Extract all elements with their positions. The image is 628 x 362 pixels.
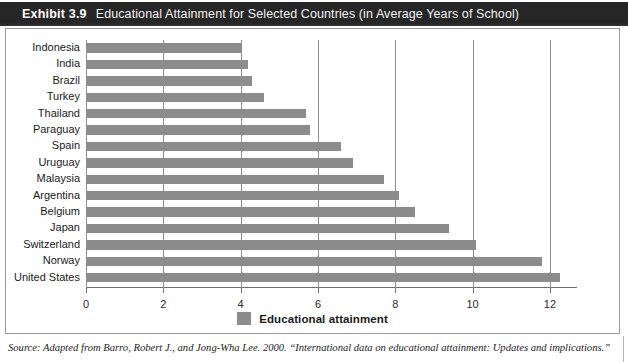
category-label-norway: Norway xyxy=(43,254,80,267)
x-tick-label-0: 0 xyxy=(83,298,89,310)
x-tick-mark-0 xyxy=(86,288,87,293)
bar-row: Indonesia xyxy=(86,40,577,56)
bar-row: Uruguay xyxy=(86,155,577,171)
bar-belgium xyxy=(86,207,415,216)
category-label-paraguay: Paraguay xyxy=(33,123,80,136)
category-label-argentina: Argentina xyxy=(33,189,80,202)
category-label-united-states: United States xyxy=(14,271,80,284)
legend-label: Educational attainment xyxy=(259,313,388,325)
x-tick-label-10: 10 xyxy=(466,298,478,310)
bar-row: Turkey xyxy=(86,89,577,105)
category-label-malaysia: Malaysia xyxy=(37,172,80,185)
category-label-india: India xyxy=(56,57,80,70)
x-tick-mark-8 xyxy=(395,288,396,293)
category-label-indonesia: Indonesia xyxy=(32,41,80,54)
chart-legend: Educational attainment xyxy=(6,312,619,325)
x-tick-label-6: 6 xyxy=(315,298,321,310)
bar-norway xyxy=(86,257,542,266)
category-label-thailand: Thailand xyxy=(38,107,80,120)
page-edge-rule xyxy=(623,336,624,362)
x-tick-mark-4 xyxy=(241,288,242,293)
bar-row: Norway xyxy=(86,253,577,269)
x-tick-mark-10 xyxy=(473,288,474,293)
category-label-turkey: Turkey xyxy=(47,90,80,103)
x-axis-line xyxy=(86,287,577,288)
plot-area: 024681012 IndonesiaIndiaBrazilTurkeyThai… xyxy=(86,40,577,288)
bar-row: India xyxy=(86,56,577,72)
bar-row: United States xyxy=(86,270,577,286)
bar-spain xyxy=(86,142,341,151)
bar-argentina xyxy=(86,191,399,200)
bar-malaysia xyxy=(86,175,384,184)
x-tick-label-4: 4 xyxy=(238,298,244,310)
bar-turkey xyxy=(86,93,264,102)
bar-row: Paraguay xyxy=(86,122,577,138)
bar-row: Brazil xyxy=(86,73,577,89)
x-tick-mark-12 xyxy=(550,288,551,293)
chart-figure-frame: 024681012 IndonesiaIndiaBrazilTurkeyThai… xyxy=(5,28,620,334)
bar-row: Spain xyxy=(86,138,577,154)
bar-united-states xyxy=(86,273,560,282)
category-label-japan: Japan xyxy=(50,221,80,234)
x-tick-mark-6 xyxy=(318,288,319,293)
bar-thailand xyxy=(86,109,306,118)
category-label-switzerland: Switzerland xyxy=(23,238,80,251)
category-label-belgium: Belgium xyxy=(40,205,80,218)
bar-brazil xyxy=(86,76,252,85)
x-tick-label-12: 12 xyxy=(544,298,556,310)
bar-row: Malaysia xyxy=(86,171,577,187)
exhibit-number: Exhibit 3.9 xyxy=(22,7,87,21)
x-tick-label-8: 8 xyxy=(392,298,398,310)
bar-switzerland xyxy=(86,240,476,249)
bar-row: Argentina xyxy=(86,188,577,204)
bar-paraguay xyxy=(86,125,310,134)
x-tick-mark-2 xyxy=(163,288,164,293)
category-label-uruguay: Uruguay xyxy=(38,156,80,169)
exhibit-title: Educational Attainment for Selected Coun… xyxy=(96,7,519,21)
bar-japan xyxy=(86,224,449,233)
category-label-spain: Spain xyxy=(52,139,80,152)
source-note: Source: Adapted from Barro, Robert J., a… xyxy=(8,341,612,354)
bar-row: Thailand xyxy=(86,106,577,122)
bar-row: Switzerland xyxy=(86,237,577,253)
bar-india xyxy=(86,60,248,69)
bar-row: Japan xyxy=(86,220,577,236)
category-label-brazil: Brazil xyxy=(52,74,80,87)
exhibit-header-bar: Exhibit 3.9 Educational Attainment for S… xyxy=(0,2,628,26)
legend-color-swatch xyxy=(237,312,251,325)
bar-row: Belgium xyxy=(86,204,577,220)
bar-uruguay xyxy=(86,158,353,167)
x-tick-label-2: 2 xyxy=(160,298,166,310)
bar-indonesia xyxy=(86,43,241,52)
